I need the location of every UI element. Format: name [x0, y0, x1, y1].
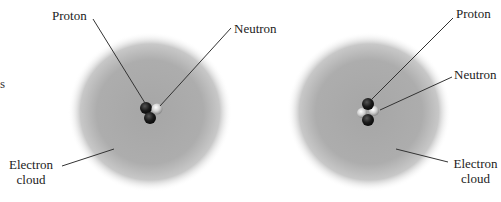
proton-ball [362, 114, 374, 126]
proton-ball [362, 98, 374, 110]
neutron-label-left: Neutron [234, 21, 277, 36]
neutron-label-right: Neutron [454, 67, 497, 82]
cropped-text-fragment: s [0, 76, 5, 92]
electron-cloud-label-right: Electron cloud [450, 156, 501, 186]
electron-cloud-right [287, 32, 451, 192]
proton-ball [144, 112, 156, 124]
proton-label-right: Proton [456, 6, 491, 21]
electron-cloud-label-left: Electron cloud [4, 157, 58, 187]
proton-label-left: Proton [52, 8, 87, 23]
atom-diagram: s Proton Neutron Electron cloud Proton N… [0, 0, 501, 202]
